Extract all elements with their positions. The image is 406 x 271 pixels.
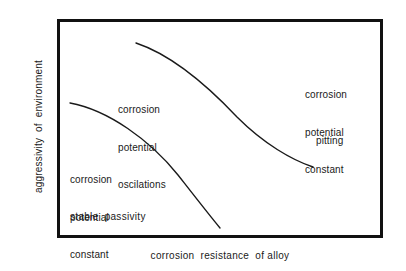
region-label-corrosion-potential-oscillations: corrosion potential oscilations [118, 79, 166, 217]
region-label-line: potential [118, 142, 166, 155]
region-label-line: corrosion [305, 89, 347, 102]
region-label-line: corrosion [70, 174, 112, 187]
y-axis-label: aggressivity of environment [33, 27, 44, 227]
x-axis-label: corrosion resistance of alloy [57, 250, 383, 261]
corrosion-schematic-figure: corrosion potential oscilations corrosio… [0, 0, 406, 271]
region-label-line: oscilations [118, 179, 166, 192]
region-label-stable-passivity: stable passivity [70, 211, 146, 224]
region-label-pitting: pitting [316, 135, 343, 148]
region-label-line: corrosion [118, 104, 166, 117]
region-label-line: constant [305, 164, 347, 177]
region-label-corrosion-potential-constant-right: corrosion potential constant [305, 64, 347, 202]
